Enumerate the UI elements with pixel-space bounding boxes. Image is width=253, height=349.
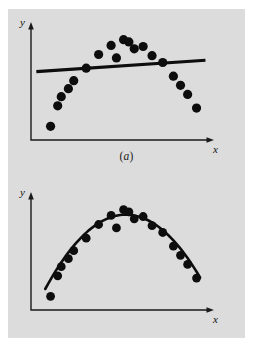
data-point	[158, 228, 167, 237]
data-point	[183, 90, 192, 99]
scatter-plot-linear-fit: y x	[0, 0, 253, 175]
data-point	[53, 101, 62, 110]
y-axis-arrow-icon-b	[28, 192, 34, 200]
panel-b: y x (b)	[0, 174, 253, 349]
x-axis-arrow-icon-b	[207, 307, 215, 313]
data-point	[192, 274, 201, 283]
data-point	[46, 122, 55, 131]
y-axis-label-b: y	[19, 186, 25, 198]
data-point	[112, 53, 121, 62]
data-point	[82, 64, 91, 73]
data-point	[139, 212, 148, 221]
data-point	[64, 84, 73, 93]
data-point	[82, 234, 91, 243]
data-point	[107, 41, 116, 50]
data-point-group-a	[46, 35, 201, 131]
figure-container: y x (a) y x (b)	[0, 0, 253, 349]
y-axis-arrow-icon-a	[28, 22, 34, 30]
data-point	[158, 58, 167, 67]
panel-a: y x (a)	[0, 0, 253, 175]
data-point	[192, 103, 201, 112]
data-point	[139, 42, 148, 51]
data-point	[94, 220, 103, 229]
panel-caption-a: (a)	[0, 150, 253, 162]
data-point	[183, 260, 192, 269]
data-point	[107, 211, 116, 220]
data-point	[57, 262, 66, 271]
data-point	[69, 246, 78, 255]
data-point	[176, 251, 185, 260]
data-point	[64, 254, 73, 263]
scatter-plot-quadratic-fit: y x	[0, 174, 253, 349]
data-point	[176, 81, 185, 90]
data-point	[148, 221, 157, 230]
data-point	[94, 50, 103, 59]
data-point	[69, 76, 78, 85]
y-axis-label-a: y	[19, 16, 25, 28]
data-point	[169, 242, 178, 251]
data-point	[46, 292, 55, 301]
x-axis-label-b: x	[212, 313, 218, 325]
quadratic-fit-curve	[45, 215, 200, 289]
data-point	[169, 72, 178, 81]
data-point	[57, 92, 66, 101]
x-axis-arrow-icon-a	[207, 137, 215, 143]
data-point	[130, 44, 139, 53]
data-point	[130, 214, 139, 223]
data-point	[112, 224, 121, 233]
data-point	[147, 51, 156, 60]
data-point	[53, 271, 62, 280]
linear-fit-line	[36, 60, 205, 71]
